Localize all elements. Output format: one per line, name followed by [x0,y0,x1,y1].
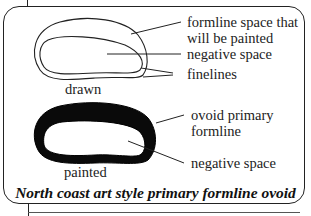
diagram-caption: North coast art style primary formline o… [0,184,311,202]
drawn-ovoid-outer-fineline [35,18,148,79]
label-negative-space-drawn: negative space [187,46,272,62]
label-negative-space-painted: negative space [191,155,276,171]
label-formline-space-line1: formline space that [187,14,298,30]
painted-ovoid-formline [34,103,155,164]
drawn-ovoid-inner-fineline [40,37,142,74]
leader-fineline-outer [143,75,173,77]
label-finelines: finelines [187,66,237,82]
title-drawn: drawn [65,81,101,97]
label-primary-formline-line2: formline [191,123,241,139]
bottom-rule [28,212,300,213]
leader-formline-space [131,22,181,34]
label-primary-formline-line1: ovoid primary [191,107,274,123]
leader-primary-formline [156,115,184,123]
bottom-connector-line [28,204,29,216]
title-painted: painted [64,164,107,180]
label-formline-space-line2: will be painted [187,30,273,46]
